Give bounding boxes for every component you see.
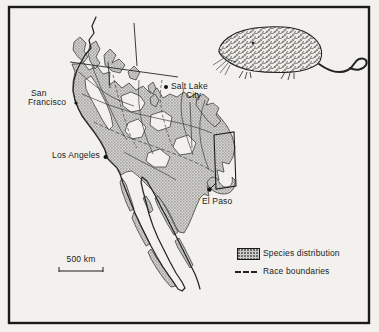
el-paso-label: El Paso — [202, 197, 232, 206]
salt-lake-city-dot — [164, 85, 168, 89]
salt-lake-city-label-line2: City — [186, 91, 208, 100]
san-francisco-dot — [74, 101, 77, 104]
race-boundaries-line-sample — [235, 271, 258, 273]
san-francisco-label: San Francisco — [31, 89, 66, 107]
legend-species-distribution-label: Species distribution — [263, 249, 340, 258]
scale-bar-line — [59, 267, 103, 272]
gopher-icon — [213, 27, 367, 80]
los-angeles-dot — [104, 155, 108, 159]
legend-race-boundaries-label: Race boundaries — [263, 267, 330, 276]
los-angeles-label: Los Angeles — [52, 151, 100, 160]
el-paso-dot — [207, 187, 211, 191]
map-artwork — [0, 0, 379, 332]
salt-lake-city-label: Salt Lake City — [171, 82, 208, 100]
scale-bar-label: 500 km — [58, 255, 104, 264]
gopher-tail — [319, 58, 367, 72]
species-distribution-swatch — [237, 248, 260, 260]
species-distribution-figure: San Francisco Salt Lake City Los Angeles… — [0, 0, 379, 332]
san-francisco-label-line2: Francisco — [28, 98, 66, 107]
gopher-eye — [252, 42, 255, 45]
